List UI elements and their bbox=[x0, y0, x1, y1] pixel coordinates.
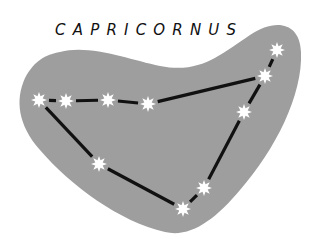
star-icon bbox=[196, 180, 212, 196]
constellation-region bbox=[20, 25, 302, 233]
star-icon bbox=[140, 96, 156, 112]
constellation-line bbox=[118, 101, 138, 103]
star-icon bbox=[257, 68, 273, 84]
star-icon bbox=[236, 104, 252, 120]
star-icon bbox=[91, 156, 107, 172]
star-icon bbox=[269, 42, 285, 58]
star-icon bbox=[100, 92, 116, 108]
star-icon bbox=[58, 93, 74, 109]
constellation-line bbox=[76, 100, 98, 101]
constellation-title: CAPRICORNUS bbox=[55, 21, 243, 39]
star-icon bbox=[175, 201, 191, 217]
star-icon bbox=[31, 92, 47, 108]
